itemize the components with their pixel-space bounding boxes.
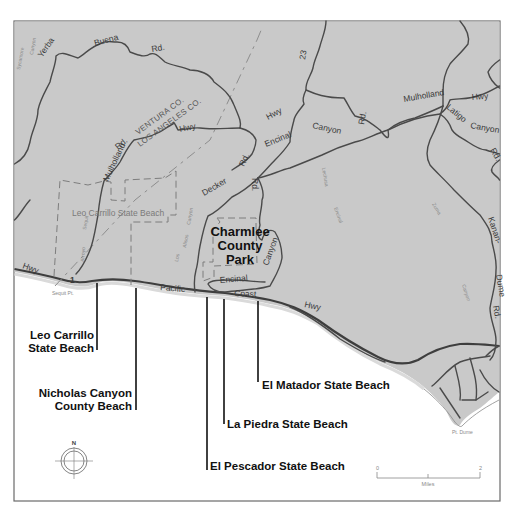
beach-leo-carrillo-line-2: State Beach: [28, 342, 94, 354]
compass-north-label: N: [72, 440, 76, 446]
beach-nicholas-canyon-line-2: County Beach: [55, 400, 132, 412]
label-hwy-e: Hwy: [471, 91, 489, 102]
beach-leo-carrillo-line-1: Leo Carrillo: [30, 329, 94, 341]
scale-unit: Miles: [422, 481, 435, 487]
label-charmlee-3: Park: [226, 252, 255, 267]
beach-label-la-piedra: La Piedra State Beach: [227, 418, 348, 430]
beach-label-el-matador: El Matador State Beach: [262, 379, 390, 391]
label-charmlee-1: Charmlee: [210, 224, 269, 239]
label-route-23: 23: [297, 49, 309, 60]
scale-max: 2: [479, 465, 482, 471]
label-route-1: 1: [70, 275, 75, 285]
label-charmlee-2: County: [218, 238, 264, 253]
beach-label-leo-carrillo: Leo Carrillo State Beach: [28, 329, 94, 354]
label-point-dume: Pt. Dume: [452, 429, 473, 435]
label-rd-vertical: Rd.: [250, 178, 260, 191]
label-sequit-point: Sequit Pt.: [52, 290, 74, 296]
label-coast: Coast: [234, 288, 257, 299]
beach-label-el-pescador: El Pescador State Beach: [210, 460, 345, 472]
scale-min: 0: [376, 465, 379, 471]
beach-nicholas-canyon-line-1: Nicholas Canyon: [39, 387, 132, 399]
map-container: Yerba Buena Rd. Hwy Rd. Mulholland 23 Hw…: [0, 0, 525, 512]
map-svg: Yerba Buena Rd. Hwy Rd. Mulholland 23 Hw…: [0, 0, 525, 512]
